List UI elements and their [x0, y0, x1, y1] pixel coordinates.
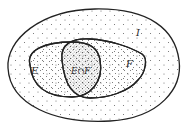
intersection-label: E∩F	[70, 66, 91, 76]
set-f-label: F	[125, 58, 134, 69]
set-e-label: E	[30, 65, 39, 76]
venn-diagram: I E F E∩F	[0, 0, 188, 133]
